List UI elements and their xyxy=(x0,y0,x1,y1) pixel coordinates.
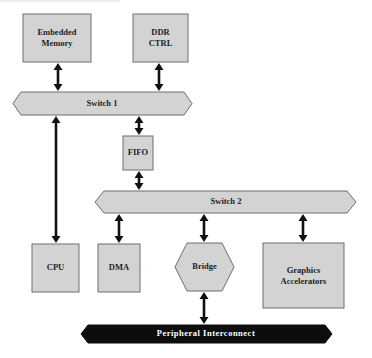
ddr-ctrl-block: DDR CTRL xyxy=(133,14,188,62)
switch1-bus: Switch 1 xyxy=(13,92,192,115)
ddr-ctrl-label-line2: CTRL xyxy=(149,38,173,48)
peripheral-interconnect-label: Peripheral Interconnect xyxy=(157,328,255,338)
switch2-bus: Switch 2 xyxy=(95,191,356,213)
dma-block: DMA xyxy=(98,244,140,292)
bridge-block: Bridge xyxy=(175,243,234,291)
graphics-accelerators-label-line1: Graphics xyxy=(287,265,321,275)
fifo-label: FIFO xyxy=(128,147,149,157)
arrow-ddr-ctrl-switch1 xyxy=(155,63,164,91)
graphics-accelerators-block: Graphics Accelerators xyxy=(263,243,344,308)
switch1-label: Switch 1 xyxy=(87,98,118,108)
soc-interconnect-diagram: Embedded Memory DDR CTRL Switch 1 FIFO S… xyxy=(0,0,372,358)
embedded-memory-label-line1: Embedded xyxy=(37,27,76,37)
ddr-ctrl-label-line1: DDR xyxy=(151,27,170,37)
cpu-label: CPU xyxy=(47,262,64,272)
fifo-block: FIFO xyxy=(123,136,153,170)
arrow-switch2-graphics-accelerators xyxy=(299,214,308,242)
embedded-memory-label-line2: Memory xyxy=(41,38,73,48)
switch2-label: Switch 2 xyxy=(211,196,242,206)
arrow-switch1-cpu xyxy=(52,116,61,243)
cpu-block: CPU xyxy=(32,244,79,292)
arrow-embedded-memory-switch1 xyxy=(54,63,63,91)
peripheral-interconnect-bus: Peripheral Interconnect xyxy=(81,325,332,343)
arrow-switch1-fifo xyxy=(135,116,144,135)
arrow-fifo-switch2 xyxy=(135,171,144,190)
graphics-accelerators-label-line2: Accelerators xyxy=(281,276,327,286)
arrow-bridge-peripheral-interconnect xyxy=(200,292,209,324)
arrow-switch2-bridge xyxy=(200,214,209,242)
dma-label: DMA xyxy=(109,262,130,272)
arrow-switch2-dma xyxy=(115,214,124,243)
bridge-label: Bridge xyxy=(192,261,217,271)
embedded-memory-block: Embedded Memory xyxy=(23,14,91,62)
